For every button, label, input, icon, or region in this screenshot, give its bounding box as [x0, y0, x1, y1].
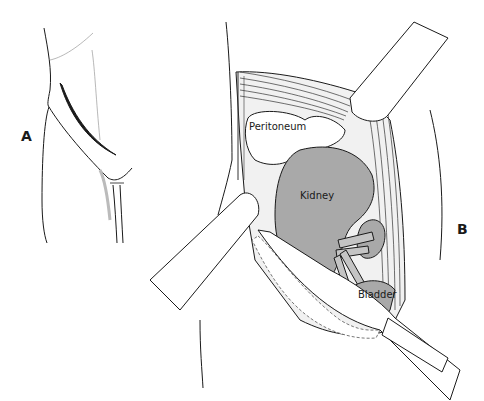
peritoneum-label: Peritoneum [249, 121, 306, 132]
panel-b-label: B [457, 221, 468, 237]
bladder-label: Bladder [358, 289, 397, 300]
retractor-top [350, 22, 448, 121]
retractor-left [150, 193, 259, 310]
incision-mark [60, 83, 116, 155]
panel-a-drawing [42, 28, 132, 243]
kidney-label: Kidney [300, 190, 334, 201]
panel-a-label: A [21, 128, 32, 144]
surgical-illustration [0, 0, 484, 401]
